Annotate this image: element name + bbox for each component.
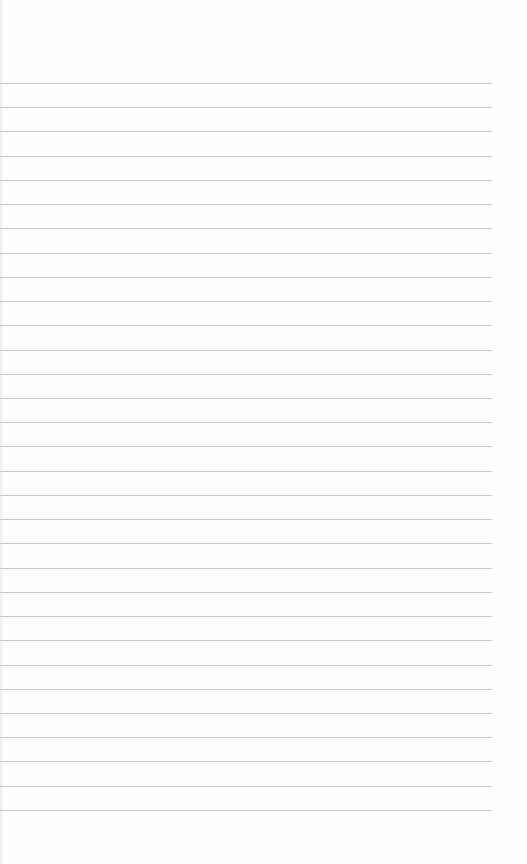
- ruled-line: [0, 131, 492, 132]
- ruled-line: [0, 398, 492, 399]
- ruled-line: [0, 616, 492, 617]
- ruled-line: [0, 737, 492, 738]
- ruled-line: [0, 107, 492, 108]
- ruled-line: [0, 689, 492, 690]
- ruled-line: [0, 592, 492, 593]
- ruled-line: [0, 83, 492, 84]
- ruled-line: [0, 495, 492, 496]
- ruled-line: [0, 761, 492, 762]
- ruled-line: [0, 471, 492, 472]
- ruled-line: [0, 786, 492, 787]
- ruled-line: [0, 640, 492, 641]
- lined-paper-sheet: [0, 0, 527, 864]
- paper-left-edge-shadow: [0, 0, 4, 864]
- ruled-line: [0, 350, 492, 351]
- ruled-line: [0, 253, 492, 254]
- ruled-line: [0, 665, 492, 666]
- ruled-line: [0, 519, 492, 520]
- ruled-line: [0, 156, 492, 157]
- ruled-line: [0, 446, 492, 447]
- ruled-line: [0, 228, 492, 229]
- ruled-line: [0, 277, 492, 278]
- ruled-line: [0, 713, 492, 714]
- ruled-line: [0, 568, 492, 569]
- ruled-line: [0, 180, 492, 181]
- ruled-line: [0, 301, 492, 302]
- ruled-line: [0, 325, 492, 326]
- ruled-line: [0, 374, 492, 375]
- ruled-line: [0, 810, 492, 811]
- ruled-line: [0, 422, 492, 423]
- ruled-line: [0, 204, 492, 205]
- ruled-line: [0, 543, 492, 544]
